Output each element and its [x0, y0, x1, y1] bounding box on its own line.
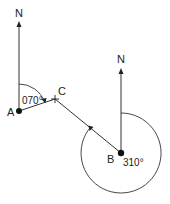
segment-cb [55, 99, 121, 153]
angle-label-b: 310° [123, 157, 144, 168]
north-line-a [17, 21, 22, 111]
point-a-label: A [7, 106, 15, 118]
point-b-dot [118, 150, 124, 156]
bearing-diagram: N 070° C A N B 310° [0, 0, 170, 204]
north-arrow-icon [119, 68, 124, 74]
north-label-b: N [117, 53, 125, 65]
north-label-a: N [15, 7, 23, 19]
point-a-dot [16, 108, 22, 114]
point-c-label: C [58, 85, 66, 97]
north-arrow-icon [17, 21, 22, 27]
north-line-b [119, 68, 124, 153]
point-b-label: B [107, 153, 114, 165]
